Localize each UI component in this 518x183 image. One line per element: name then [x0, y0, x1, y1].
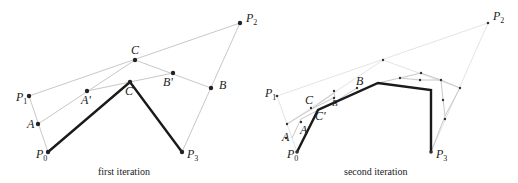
label-p1: P1: [264, 86, 276, 102]
de-casteljau-diagram: P0 P1 P2 P3 A C B A' B' C first iteratio…: [0, 0, 518, 183]
right-subdivision-construction: [378, 78, 445, 152]
caption-first-iteration: first iteration: [98, 166, 150, 177]
label-a-prime: A': [80, 93, 91, 107]
label-c: C: [305, 93, 314, 107]
point-p1: [27, 94, 31, 98]
label-c-prime: C': [315, 109, 326, 123]
label-p3: P3: [435, 147, 447, 163]
previous-construction: [287, 60, 460, 124]
label-b-prime: B: [332, 98, 338, 108]
label-c-prime: C: [125, 84, 134, 98]
label-b-prime: B': [163, 75, 173, 89]
points: [276, 22, 490, 154]
point-p3: [429, 150, 433, 154]
point-c: [133, 58, 137, 62]
label-a: A: [281, 130, 290, 144]
point-a: [36, 122, 40, 126]
label-p2: P2: [492, 9, 504, 25]
label-a-prime: A: [299, 123, 308, 137]
label-b: B: [356, 74, 364, 88]
subdivided-polyline: [48, 82, 182, 152]
point-p3: [180, 150, 184, 154]
label-p1: P1: [15, 90, 27, 106]
point-p2: [487, 22, 490, 25]
panel-first-iteration: P0 P1 P2 P3 A C B A' B' C first iteratio…: [15, 11, 257, 177]
label-a: A: [26, 117, 35, 131]
point-p2: [238, 21, 242, 25]
label-p0: P0: [35, 147, 47, 163]
label-p2: P2: [245, 11, 257, 27]
label-c: C: [131, 43, 140, 57]
label-b: B: [219, 78, 227, 92]
label-p3: P3: [186, 147, 198, 163]
panel-second-iteration: P0 P1 P2 P3 A A C C' B B second iteratio…: [264, 9, 504, 177]
control-polygon: [277, 23, 488, 152]
caption-second-iteration: second iteration: [344, 166, 408, 177]
right-subdivision-construction-3: [441, 80, 460, 116]
point-b: [209, 86, 213, 90]
